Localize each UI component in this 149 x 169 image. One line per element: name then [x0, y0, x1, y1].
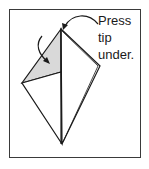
instruction-line-2: tip [98, 30, 112, 46]
instruction-line-1: Press [98, 13, 131, 29]
left-lower-face [22, 72, 62, 144]
right-face [61, 29, 100, 144]
instruction-line-3: under. [98, 47, 134, 63]
curved-arrow-press-icon [62, 16, 98, 30]
